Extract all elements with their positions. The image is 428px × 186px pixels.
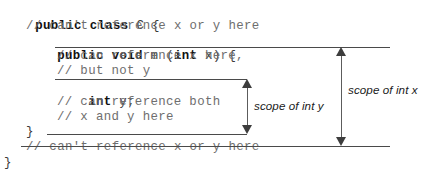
code-line-11: } (4, 156, 12, 171)
code-line-7: // can reference both (57, 95, 221, 110)
code-line-5: // but not y (57, 64, 150, 79)
scope-y-label: scope of int y (254, 99, 324, 112)
code-line-9: } (26, 125, 34, 140)
scope-y-bottom-boundary-line (47, 134, 247, 135)
scope-x-arrow-stem (341, 49, 342, 144)
scope-x-arrow-up-head (336, 47, 346, 56)
scope-y-arrow-down-head (242, 125, 252, 134)
scope-x-bottom-boundary-line (21, 146, 390, 147)
code-line-4: // can reference x here, (57, 49, 244, 64)
scope-diagram: public class C { // can't reference x or… (0, 0, 428, 186)
code-line-10: // can't reference x or y here (26, 140, 260, 155)
scope-y-arrow-up-head (242, 79, 252, 88)
scope-x-label: scope of int x (348, 83, 418, 96)
code-line-2: // can't reference x or y here (26, 19, 260, 34)
scope-x-arrow-down-head (336, 137, 346, 146)
scope-y-top-boundary-line (55, 79, 247, 80)
code-line-8: // x and y here (57, 110, 174, 125)
